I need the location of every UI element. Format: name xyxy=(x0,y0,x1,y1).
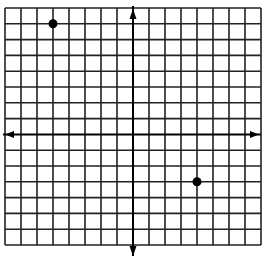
axes xyxy=(3,6,261,256)
data-point xyxy=(193,177,202,186)
x-axis-arrow-right-icon xyxy=(250,131,259,138)
coordinate-plane xyxy=(0,0,264,262)
x-axis-arrow-left-icon xyxy=(5,131,14,138)
data-point xyxy=(49,19,58,28)
y-axis-arrow-down-icon xyxy=(130,246,137,256)
y-axis-arrow-up-icon xyxy=(130,9,137,19)
